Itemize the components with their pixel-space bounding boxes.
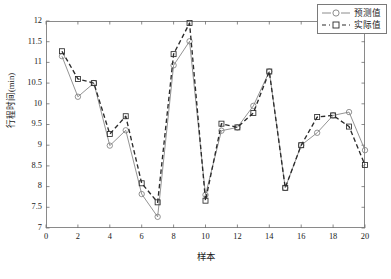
x-tick-label: 18 [319,233,347,241]
y-tick-label: 9.5 [2,120,42,128]
y-tick-label: 8.5 [2,162,42,170]
y-tick-label: 11.5 [2,38,42,46]
y-tick-label: 12 [2,17,42,25]
legend-label-actual: 实际值 [351,19,381,31]
chart-legend: 预测值 实际值 [317,4,387,34]
legend-marker-square-dashed [321,19,351,31]
x-tick-label: 10 [192,233,220,241]
legend-label-predicted: 预测值 [351,7,381,19]
x-tick-label: 20 [351,233,379,241]
y-tick-label: 7 [2,224,42,232]
y-tick-label: 10 [2,100,42,108]
y-tick-label: 10.5 [2,79,42,87]
y-tick-label: 9 [2,141,42,149]
x-tick-label: 4 [96,233,124,241]
plot-area [46,21,365,228]
legend-marker-circle-line [321,7,351,19]
y-tick-label: 8 [2,182,42,190]
chart-figure: 行程时间(min) 样本 77.588.599.51010.51111.512 … [0,0,391,279]
x-axis-label: 样本 [46,252,365,262]
legend-entry-predicted: 预测值 [321,7,381,19]
x-tick-label: 14 [255,233,283,241]
x-tick-label: 8 [160,233,188,241]
y-tick-label: 7.5 [2,203,42,211]
x-tick-label: 12 [223,233,251,241]
legend-entry-actual: 实际值 [321,19,381,31]
x-tick-label: 6 [128,233,156,241]
x-tick-label: 2 [64,233,92,241]
x-tick-label: 16 [287,233,315,241]
x-tick-label: 0 [32,233,60,241]
y-tick-label: 11 [2,58,42,66]
